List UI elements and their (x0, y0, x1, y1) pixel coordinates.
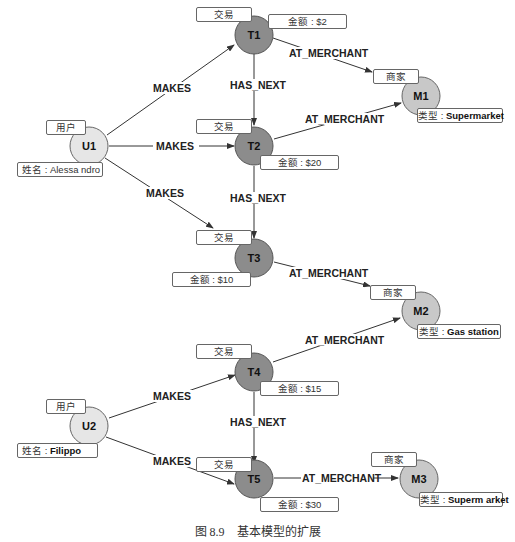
prop-box-t4: 金额 : $15 (260, 381, 339, 396)
type-label-m1: 商家 (373, 69, 419, 84)
edge-label-makes: MAKES (156, 140, 194, 152)
type-label-u2: 用户 (46, 399, 86, 414)
figure-caption: 图 8.9 基本模型的扩展 (0, 522, 515, 540)
node-t5-label: T5 (248, 473, 261, 485)
graph-diagram: MAKES MAKES MAKES HAS_NEXT HAS_NEXT HAS_… (0, 0, 515, 542)
node-t2-label: T2 (248, 140, 261, 152)
node-t3-label: T3 (248, 252, 261, 264)
prop-box-t1: 金额 : $2 (268, 14, 347, 29)
prop-box-t2: 金额 : $20 (260, 155, 339, 170)
node-u1-label: U1 (82, 140, 96, 152)
edge-label-has-next: HAS_NEXT (230, 192, 287, 204)
prop-box-t3: 金额 : $10 (172, 272, 251, 287)
type-label-t3: 交易 (196, 230, 252, 245)
edge-label-makes: MAKES (153, 455, 191, 467)
type-label-t4: 交易 (196, 344, 252, 359)
type-label-m2: 商家 (370, 285, 416, 300)
prop-box-u1: 姓名 : Alessa ndro (17, 162, 103, 177)
edge-label-at-merchant: AT_MERCHANT (289, 47, 369, 59)
node-m1-label: M1 (413, 90, 428, 102)
prop-box-m3: 类型 : Superm arket (419, 492, 503, 507)
edge-label-at-merchant: AT_MERCHANT (302, 472, 382, 484)
type-label-t1: 交易 (196, 7, 252, 22)
edge-label-has-next: HAS_NEXT (230, 416, 287, 428)
type-label-u1: 用户 (46, 120, 86, 135)
prop-box-m2: 类型 : Gas station (417, 324, 501, 339)
edge-label-makes: MAKES (153, 82, 191, 94)
type-label-t5: 交易 (196, 457, 252, 472)
node-m3-label: M3 (411, 473, 426, 485)
edge-label-at-merchant: AT_MERCHANT (289, 267, 369, 279)
edge-label-at-merchant: AT_MERCHANT (305, 113, 385, 125)
prop-box-u2: 姓名 : Filippo (17, 443, 98, 458)
prop-box-m1: 类型 : Supermarket (417, 108, 503, 123)
type-label-t2: 交易 (196, 119, 252, 134)
edge-label-has-next: HAS_NEXT (230, 79, 287, 91)
node-u2-label: U2 (82, 420, 96, 432)
prop-box-t5: 金额 : $30 (260, 497, 339, 512)
node-t4-label: T4 (248, 366, 262, 378)
edge-label-makes: MAKES (146, 187, 184, 199)
node-m2-label: M2 (413, 305, 428, 317)
edge-label-makes: MAKES (153, 390, 191, 402)
edge-label-at-merchant: AT_MERCHANT (305, 334, 385, 346)
node-t1-label: T1 (248, 29, 261, 41)
type-label-m3: 商家 (371, 452, 417, 467)
